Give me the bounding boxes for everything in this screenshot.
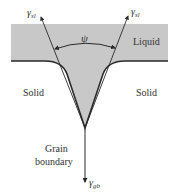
grain-boundary-groove-diagram: ψ Liquid Solid Solid Grain boundary γsl … (0, 0, 171, 195)
grain-boundary-tension-label: γgb (89, 177, 100, 190)
solid-right-label: Solid (136, 87, 157, 98)
right-tension-label: γsl (131, 6, 140, 19)
grain-boundary-label-line1: Grain (45, 143, 68, 154)
grain-boundary-label-line2: boundary (35, 156, 73, 167)
left-tension-label: γsl (27, 7, 36, 20)
liquid-label: Liquid (133, 36, 160, 47)
solid-left-label: Solid (23, 87, 44, 98)
psi-label: ψ (81, 32, 88, 44)
